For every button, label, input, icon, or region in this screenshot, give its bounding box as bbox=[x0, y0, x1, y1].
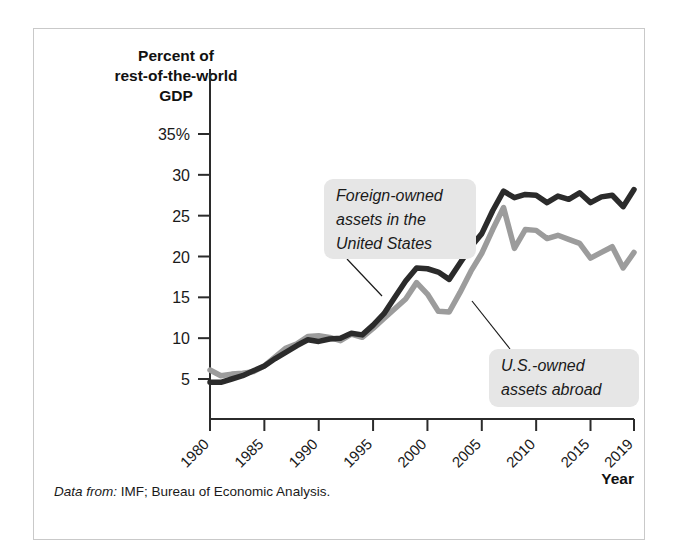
x-tick-label: 1990 bbox=[285, 435, 321, 471]
x-tick-label: 2019 bbox=[601, 435, 637, 471]
y-tick-label: 15 bbox=[172, 289, 190, 306]
x-axis-title: Year bbox=[601, 470, 634, 487]
foreign-owned-callout-leader-line bbox=[347, 259, 382, 296]
y-tick-label: 35% bbox=[158, 126, 190, 143]
x-tick-label: 1995 bbox=[340, 435, 376, 471]
source-note-text: IMF; Bureau of Economic Analysis. bbox=[121, 484, 330, 499]
y-axis-ticks: 35%30252015105 bbox=[158, 126, 210, 388]
line-chart: Percent of rest-of-the-world GDP 35%3025… bbox=[34, 29, 644, 539]
chart-annotations: Foreign-ownedassets in theUnited StatesU… bbox=[324, 179, 639, 407]
y-axis-label-line-3: GDP bbox=[159, 87, 193, 104]
x-tick-label: 2005 bbox=[448, 435, 484, 471]
us-owned-callout-leader-line bbox=[472, 301, 510, 349]
figure-panel: Percent of rest-of-the-world GDP 35%3025… bbox=[33, 28, 645, 540]
source-note-lead: Data from: bbox=[54, 484, 117, 499]
foreign-owned-callout-line-1: Foreign-owned bbox=[336, 187, 444, 204]
y-axis-label-line-1: Percent of bbox=[138, 47, 215, 64]
y-tick-label: 20 bbox=[172, 249, 190, 266]
x-tick-label: 2000 bbox=[394, 435, 430, 471]
x-axis-ticks: 198019851990199520002005201020152019 bbox=[177, 419, 637, 471]
y-tick-label: 30 bbox=[172, 167, 190, 184]
x-tick-label: 1980 bbox=[177, 435, 213, 471]
us-owned-callout-line-2: assets abroad bbox=[501, 381, 603, 398]
y-axis-label-line-2: rest-of-the-world bbox=[114, 67, 237, 84]
y-tick-label: 5 bbox=[181, 371, 190, 388]
source-note: Data from: IMF; Bureau of Economic Analy… bbox=[54, 484, 330, 499]
foreign-owned-callout-line-3: United States bbox=[336, 235, 432, 252]
y-tick-label: 25 bbox=[172, 208, 190, 225]
y-tick-label: 10 bbox=[172, 330, 190, 347]
x-tick-label: 1985 bbox=[231, 435, 267, 471]
us-owned-callout-line-1: U.S.-owned bbox=[501, 357, 586, 374]
foreign-owned-callout-line-2: assets in the bbox=[336, 211, 426, 228]
y-axis-label: Percent of rest-of-the-world GDP bbox=[114, 47, 237, 104]
x-tick-label: 2010 bbox=[503, 435, 539, 471]
x-tick-label: 2015 bbox=[557, 435, 593, 471]
